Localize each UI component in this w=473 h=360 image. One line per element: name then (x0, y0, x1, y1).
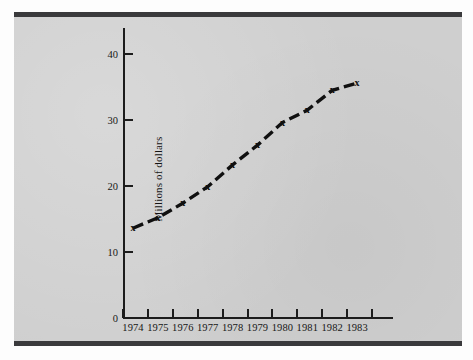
series-line (0, 0, 473, 360)
data-marker-1983: x (355, 78, 360, 88)
plot-area: Millions of dollars 010203040 1974197519… (0, 0, 473, 360)
data-marker-1977: x (205, 182, 210, 192)
data-marker-1975: x (155, 213, 160, 223)
data-marker-1980: x (280, 118, 285, 128)
figure-page: Millions of dollars 010203040 1974197519… (0, 0, 473, 360)
data-marker-1976: x (180, 198, 185, 208)
data-marker-1981: x (305, 105, 310, 115)
data-marker-1978: x (230, 160, 235, 170)
data-marker-1974: x (131, 223, 136, 233)
data-marker-1979: x (255, 140, 260, 150)
data-marker-1982: x (330, 85, 335, 95)
